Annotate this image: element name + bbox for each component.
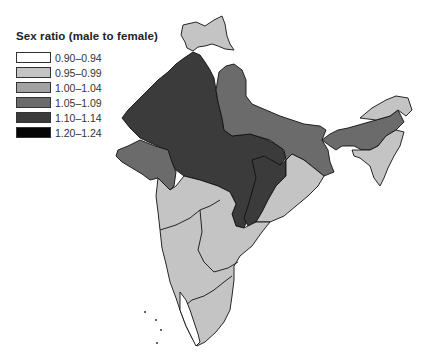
island-dot — [144, 311, 146, 313]
india-choropleth-map — [0, 0, 428, 357]
region-jammu-kashmir — [181, 16, 234, 51]
region-arunachal — [360, 96, 412, 120]
island-dot — [160, 329, 162, 331]
island-dot — [156, 342, 158, 344]
island-dot — [155, 319, 157, 321]
